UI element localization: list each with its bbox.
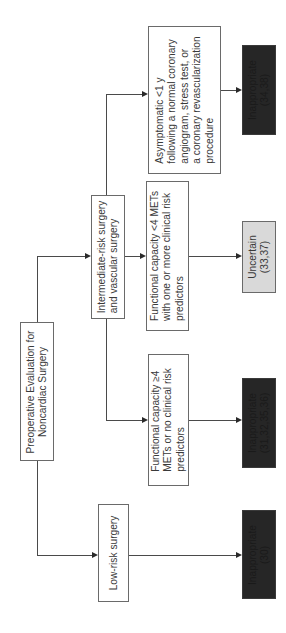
connector-to-intermediate: [37, 256, 85, 257]
connector-root-down: [37, 461, 38, 556]
connector-high-capacity-outcome: [189, 420, 236, 421]
connector-to-high-capacity: [106, 420, 142, 421]
outcome-text: Uncertain (33,37): [247, 235, 272, 279]
node-asymptomatic-text: Asymptomatic <1 y following a normal cor…: [153, 36, 215, 163]
outcome-text: Inappropriate (34,38): [247, 60, 272, 120]
outcome-inappropriate-high-capacity: Inappropriate (31,32,35,36): [242, 378, 276, 468]
connector-intermediate-down: [106, 319, 107, 421]
outcome-inappropriate-low-risk: Inappropriate (30): [242, 510, 276, 599]
root-node-text: Preoperative Evaluation for Noncardiac S…: [25, 330, 50, 453]
node-intermediate-risk-surgery: Intermediate-risk surgery and vascular s…: [91, 195, 125, 319]
connector-lowrisk-outcome: [128, 555, 236, 556]
connector-asymptomatic-outcome: [221, 90, 236, 91]
node-low-risk-surgery: Low-risk surgery: [98, 504, 129, 602]
connector-root-up: [37, 256, 38, 322]
node-high-capacity-text: Functional capacity ≥4 METs or no clinic…: [150, 368, 187, 472]
outcome-uncertain-low-capacity: Uncertain (33,37): [242, 221, 276, 293]
connector-to-low-capacity: [124, 256, 140, 257]
outcome-inappropriate-asymptomatic: Inappropriate (34,38): [242, 45, 276, 135]
node-functional-capacity-low: Functional capacity <4 METs with one or …: [146, 181, 189, 331]
connector-to-lowrisk: [37, 555, 92, 556]
node-intermediate-text: Intermediate-risk surgery and vascular s…: [96, 201, 121, 314]
root-node-preoperative-evaluation: Preoperative Evaluation for Noncardiac S…: [20, 322, 54, 461]
outcome-text: Inappropriate (30): [247, 524, 272, 584]
node-functional-capacity-high: Functional capacity ≥4 METs or no clinic…: [148, 354, 189, 486]
outcome-text: Inappropriate (31,32,35,36): [247, 393, 272, 454]
node-asymptomatic: Asymptomatic <1 y following a normal cor…: [148, 26, 221, 174]
connector-low-capacity-outcome: [189, 256, 236, 257]
node-low-capacity-text: Functional capacity <4 METs with one or …: [149, 191, 186, 321]
connector-intermediate-up: [106, 94, 107, 195]
connector-to-asymptomatic: [106, 94, 142, 95]
node-low-risk-text: Low-risk surgery: [107, 516, 119, 591]
